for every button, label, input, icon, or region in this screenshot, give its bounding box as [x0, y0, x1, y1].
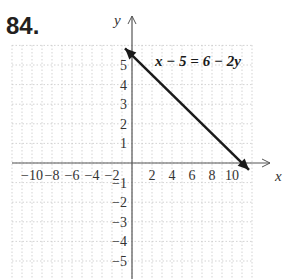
y-tick-label: 2 — [120, 117, 127, 132]
y-tick-label: −5 — [112, 254, 127, 269]
y-tick-label: 1 — [120, 136, 127, 151]
y-axis-label: y — [112, 12, 121, 28]
x-tick-label: 6 — [189, 168, 196, 183]
x-tick-label: −4 — [85, 168, 100, 183]
problem-number: 84. — [6, 12, 39, 40]
equation-label: x − 5 = 6 − 2y — [154, 53, 241, 69]
y-tick-label: 4 — [120, 78, 127, 93]
y-tick-label: 3 — [120, 97, 127, 112]
graph-figure: 84. xy −10−8−6−4−224681054321−1−2−3−4−5 … — [0, 0, 285, 279]
y-tick-label: −2 — [112, 195, 127, 210]
x-tick-label: 4 — [169, 168, 176, 183]
x-tick-label: 10 — [225, 168, 239, 183]
y-tick-label: −4 — [112, 234, 127, 249]
y-tick-label: −3 — [112, 215, 127, 230]
y-tick-label: 5 — [120, 58, 127, 73]
axes: xy — [12, 12, 282, 279]
x-tick-label: −10 — [21, 168, 43, 183]
x-tick-label: −8 — [45, 168, 60, 183]
x-tick-label: 8 — [209, 168, 216, 183]
x-tick-label: −6 — [65, 168, 80, 183]
x-axis-label: x — [274, 168, 282, 184]
y-tick-label: −1 — [112, 176, 127, 191]
x-tick-label: 2 — [149, 168, 156, 183]
coordinate-plane: xy −10−8−6−4−224681054321−1−2−3−4−5 x − … — [0, 0, 285, 279]
